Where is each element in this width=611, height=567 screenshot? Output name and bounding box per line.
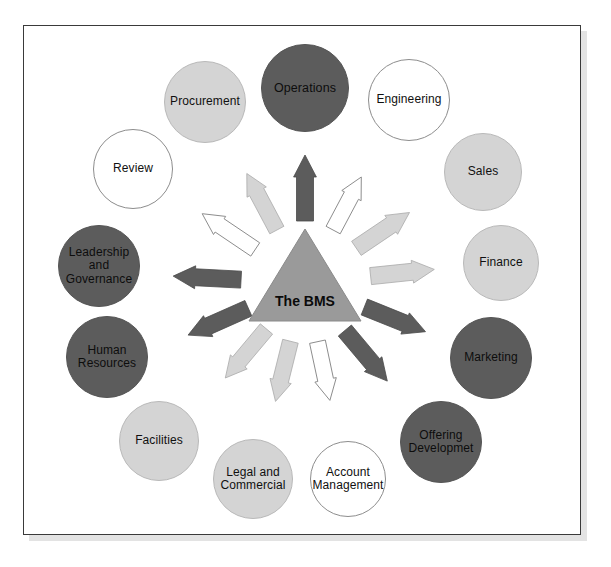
node-legal-and-commercial[interactable]: Legal andCommercial <box>213 439 293 519</box>
node-label-account-management: AccountManagement <box>309 466 386 493</box>
node-label-procurement: Procurement <box>167 95 243 108</box>
arrow-to-account-management <box>310 340 337 400</box>
arrow-to-leadership <box>173 266 241 289</box>
arrow-to-operations <box>294 155 317 221</box>
node-label-engineering: Engineering <box>373 93 444 106</box>
node-label-sales: Sales <box>465 165 502 178</box>
node-label-offering-development: OfferingDevelopmet <box>405 429 476 456</box>
arrow-to-marketing <box>361 299 425 334</box>
hub-node: The BMS <box>247 227 363 323</box>
arrow-to-engineering <box>326 177 361 234</box>
hub-label: The BMS <box>275 293 335 323</box>
node-leadership-and-governance[interactable]: LeadershipandGovernance <box>58 225 140 307</box>
arrow-to-procurement <box>247 174 284 234</box>
arrow-to-finance <box>370 260 435 284</box>
node-procurement[interactable]: Procurement <box>164 61 246 143</box>
node-engineering[interactable]: Engineering <box>368 59 450 141</box>
node-offering-development[interactable]: OfferingDevelopmet <box>400 401 482 483</box>
node-label-leadership-and-governance: LeadershipandGovernance <box>63 246 135 286</box>
node-label-human-resources: HumanResources <box>75 344 139 371</box>
arrow-to-offering-development <box>338 325 387 381</box>
node-facilities[interactable]: Facilities <box>119 401 199 481</box>
arrow-to-facilities <box>225 324 272 378</box>
node-human-resources[interactable]: HumanResources <box>66 316 148 398</box>
node-label-legal-and-commercial: Legal andCommercial <box>217 466 288 493</box>
node-label-marketing: Marketing <box>461 351 521 364</box>
node-label-review: Review <box>110 162 156 175</box>
node-label-facilities: Facilities <box>132 434 186 447</box>
arrow-to-legal-and-commercial <box>270 339 298 401</box>
arrow-to-human-resources <box>188 301 252 337</box>
node-review[interactable]: Review <box>93 129 173 209</box>
node-operations[interactable]: Operations <box>261 44 349 132</box>
node-label-operations: Operations <box>271 81 339 95</box>
node-finance[interactable]: Finance <box>463 225 539 301</box>
node-marketing[interactable]: Marketing <box>450 317 532 399</box>
node-sales[interactable]: Sales <box>444 133 522 211</box>
node-label-finance: Finance <box>476 256 525 269</box>
diagram-canvas: The BMS OperationsEngineeringSalesFinanc… <box>0 0 611 567</box>
node-account-management[interactable]: AccountManagement <box>310 441 386 517</box>
